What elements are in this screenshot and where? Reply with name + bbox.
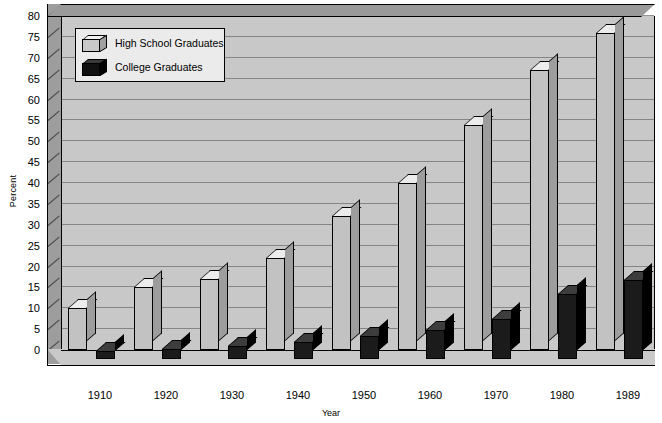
bar-college-1920 [162,349,181,359]
legend-label-high-school: High School Graduates [115,37,224,49]
y-tick-label: 55 [14,115,40,125]
x-tick-label: 1960 [395,389,465,401]
y-tick-label: 40 [14,178,40,188]
y-tick-label: 75 [14,32,40,42]
y-tick-label: 25 [14,241,40,251]
x-tick-label: 1989 [593,389,662,401]
bar-college-1980 [558,294,577,359]
legend-swatch-college-icon [82,59,108,76]
bar-high-school-1950 [332,216,351,350]
bar-college-1950 [360,336,379,359]
y-tick-label: 0 [14,345,40,355]
bar-high-school-1989 [596,33,615,350]
y-tick-label: 60 [14,95,40,105]
y-tick-label: 45 [14,157,40,167]
bar-college-1970 [492,319,511,359]
x-tick-label: 1950 [329,389,399,401]
bar-high-school-1970 [464,125,483,350]
legend-item-high-school: High School Graduates [82,32,224,54]
y-tick-label: 70 [14,53,40,63]
x-tick-label: 1940 [263,389,333,401]
legend-swatch-high-school-icon [82,35,108,52]
y-tick-label: 15 [14,282,40,292]
bar-college-1989 [624,280,643,359]
x-tick-label: 1970 [461,389,531,401]
x-tick-label: 1930 [197,389,267,401]
bar-college-1960 [426,330,445,359]
y-tick-label: 35 [14,199,40,209]
y-tick-label: 5 [14,324,40,334]
x-tick-label: 1920 [131,389,201,401]
bar-college-1940 [294,342,313,359]
y-tick-label: 80 [14,11,40,21]
y-axis-ticks: 05101520253035404550556065707580 [12,0,40,423]
bar-high-school-1940 [266,258,285,350]
y-tick-label: 65 [14,74,40,84]
bar-high-school-1910 [68,308,87,350]
bar-high-school-1980 [530,70,549,350]
chart-legend: High School Graduates College Graduates [75,28,225,82]
bar-college-1930 [228,346,247,359]
bar-college-1910 [96,351,115,359]
legend-label-college: College Graduates [115,61,203,73]
bar-chart: Percent 05101520253035404550556065707580… [0,0,662,423]
x-axis-title: Year [0,408,662,418]
x-tick-label: 1910 [65,389,135,401]
y-tick-label: 20 [14,262,40,272]
bar-high-school-1960 [398,183,417,350]
y-tick-label: 10 [14,303,40,313]
legend-item-college: College Graduates [82,56,203,78]
y-tick-label: 30 [14,220,40,230]
bar-high-school-1930 [200,279,219,350]
x-tick-label: 1980 [527,389,597,401]
y-tick-label: 50 [14,136,40,146]
bar-high-school-1920 [134,287,153,350]
